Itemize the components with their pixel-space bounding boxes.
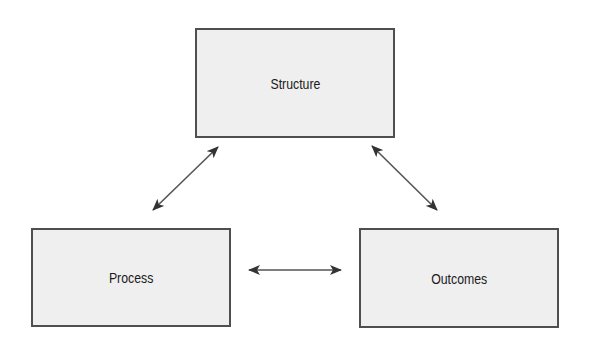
arrow-structure-process	[153, 147, 218, 210]
diagram-canvas: Structure Process Outcomes	[0, 0, 590, 343]
node-process: Process	[31, 228, 231, 327]
node-outcomes-label: Outcomes	[431, 270, 487, 287]
node-structure-label: Structure	[270, 75, 320, 92]
node-outcomes: Outcomes	[359, 228, 559, 328]
node-process-label: Process	[109, 269, 153, 286]
node-structure: Structure	[195, 28, 395, 138]
arrow-structure-outcomes	[372, 146, 437, 210]
